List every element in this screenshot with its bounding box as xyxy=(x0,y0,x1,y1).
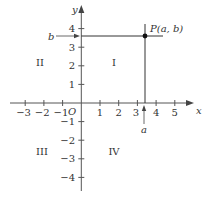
y-tick-label: 3 xyxy=(69,42,75,53)
x-tick-label: −2 xyxy=(35,107,50,118)
b-marker: b xyxy=(48,31,80,42)
x-tick-label: 2 xyxy=(116,107,122,118)
y-tick-label: 1 xyxy=(69,79,75,90)
a-arrow-icon xyxy=(142,105,146,111)
b-arrow-icon xyxy=(74,34,80,38)
x-tick-label: 4 xyxy=(153,107,159,118)
x-tick-label: 5 xyxy=(172,107,178,118)
y-tick-label: 2 xyxy=(69,60,75,71)
y-tick-label: −1 xyxy=(60,116,75,127)
y-axis xyxy=(78,5,84,191)
origin-label: O xyxy=(68,106,76,117)
y-tick-label: 4 xyxy=(69,23,75,34)
quadrant-IV-label: IV xyxy=(108,146,120,157)
x-tick-label: −3 xyxy=(16,107,31,118)
x-axis xyxy=(10,100,194,106)
a-marker: a xyxy=(141,105,147,135)
x-tick-label: 3 xyxy=(133,107,139,118)
y-axis-arrow-icon xyxy=(78,5,84,13)
point-p-label: P(a, b) xyxy=(149,23,183,34)
x-axis-tick-labels: −3 −2 −1 1 2 3 4 5 xyxy=(16,107,178,118)
coordinate-plane-diagram: −3 −2 −1 1 2 3 4 5 4 3 2 1 −1 −2 −3 −4 y… xyxy=(0,0,203,201)
x-tick-label: 1 xyxy=(97,107,103,118)
y-axis-label: y xyxy=(71,4,78,15)
x-axis-label: x xyxy=(196,105,202,116)
point-p xyxy=(143,34,148,39)
a-label: a xyxy=(141,124,147,135)
quadrant-I-label: I xyxy=(112,57,116,68)
y-tick-label: −4 xyxy=(60,172,75,183)
b-label: b xyxy=(48,31,54,42)
quadrant-II-label: II xyxy=(36,57,44,68)
quadrant-III-label: III xyxy=(36,146,48,157)
y-tick-label: −2 xyxy=(60,135,75,146)
x-axis-arrow-icon xyxy=(186,100,194,106)
y-tick-label: −3 xyxy=(60,153,75,164)
